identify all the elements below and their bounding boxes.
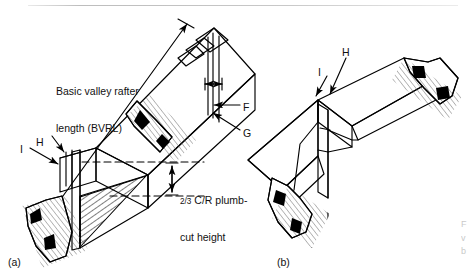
callout-arrow-H-b <box>330 58 346 94</box>
panel-caption-b: (b) <box>277 256 290 268</box>
bvrl-line-1: Basic valley rafter <box>56 85 139 97</box>
callout-label-F: F <box>243 101 249 113</box>
panel-caption-a: (a) <box>8 256 21 268</box>
label-plumb-cut-height: 2/3 C/R plumb- cut height <box>180 169 247 268</box>
rafter-b-lower-face <box>248 100 318 190</box>
bvrl-line-2: length (BVRL) <box>56 122 139 134</box>
rafter-a-top-end <box>178 28 228 66</box>
cut-off-caption-text: Fvb <box>461 218 473 259</box>
callout-arrow-I-b <box>316 76 327 96</box>
plumb-rest: C/R plumb- <box>191 194 247 206</box>
callout-label-G: G <box>243 127 251 139</box>
callout-arrow-I-a <box>30 148 58 164</box>
callout-label-H-panel-b: H <box>342 46 350 58</box>
label-basic-valley-rafter-length: Basic valley rafter length (BVRL) <box>56 60 139 159</box>
rafter-b-break-upper <box>388 50 470 126</box>
callout-label-H-panel-a: H <box>36 136 44 148</box>
callout-label-I-panel-b: I <box>318 66 321 78</box>
plumb-line-1: 2/3 C/R plumb- <box>180 194 247 207</box>
figure-page: Basic valley rafter length (BVRL) 2/3 C/… <box>0 0 473 280</box>
callout-label-I-panel-a: I <box>20 143 23 155</box>
callout-arrow-G <box>213 113 240 130</box>
plumb-line-2: cut height <box>180 231 247 243</box>
